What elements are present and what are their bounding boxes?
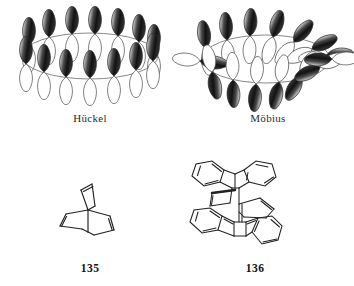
huckel-orbital-diagram xyxy=(8,4,173,108)
huckel-svg xyxy=(8,4,173,108)
structure-136-number: 136 xyxy=(225,262,285,274)
structure-135 xyxy=(50,180,130,252)
mobius-caption: Möbius xyxy=(218,112,318,124)
mobius-orbital-diagram xyxy=(186,4,354,108)
structure-135-number: 135 xyxy=(60,262,120,274)
structure-136 xyxy=(182,160,317,258)
benzo-dimer-svg xyxy=(182,160,317,258)
huckel-caption: Hückel xyxy=(40,112,140,124)
mobius-svg xyxy=(186,4,354,108)
barrelene-svg xyxy=(50,180,130,252)
